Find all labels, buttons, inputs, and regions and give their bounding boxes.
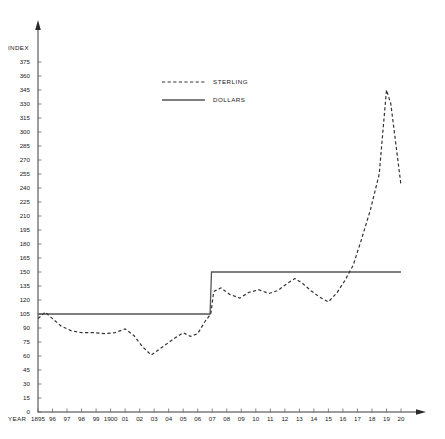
x-tick-label: 18 (369, 415, 376, 422)
x-tick-label: 05 (180, 415, 187, 422)
y-tick-label: 345 (6, 86, 30, 93)
y-tick-label: 60 (6, 352, 30, 359)
y-tick-label: 135 (6, 282, 30, 289)
y-tick-label: 30 (6, 380, 30, 387)
legend-label-dollars: DOLLARS (213, 96, 245, 103)
y-tick-label: 285 (6, 142, 30, 149)
x-tick-label: 04 (165, 415, 172, 422)
x-tick-label: 17 (354, 415, 361, 422)
y-tick-label: 105 (6, 310, 30, 317)
x-axis-title: YEAR (8, 415, 26, 422)
x-tick-label: 02 (136, 415, 143, 422)
x-tick-label: 08 (223, 415, 230, 422)
x-tick-label: 01 (122, 415, 129, 422)
x-tick-label: 03 (151, 415, 158, 422)
x-tick-label: 98 (78, 415, 85, 422)
y-axis-title: INDEX (8, 44, 29, 51)
y-tick-label: 45 (6, 366, 30, 373)
y-tick-label: 0 (6, 408, 30, 415)
y-tick-label: 315 (6, 114, 30, 121)
y-tick-label: 255 (6, 170, 30, 177)
y-tick-label: 270 (6, 156, 30, 163)
y-tick-label: 150 (6, 268, 30, 275)
x-tick-label: 09 (238, 415, 245, 422)
y-tick-label: 165 (6, 254, 30, 261)
y-tick-label: 195 (6, 226, 30, 233)
x-tick-label: 12 (281, 415, 288, 422)
x-tick-label: 16 (339, 415, 346, 422)
series-line-sterling (38, 90, 401, 355)
y-tick-label: 330 (6, 100, 30, 107)
y-tick-label: 300 (6, 128, 30, 135)
x-tick-label: 14 (310, 415, 317, 422)
y-tick-label: 15 (6, 394, 30, 401)
y-tick-label: 375 (6, 58, 30, 65)
x-tick-label: 1895 (31, 415, 45, 422)
x-tick-label: 99 (93, 415, 100, 422)
x-tick-label: 13 (296, 415, 303, 422)
x-tick-label: 06 (194, 415, 201, 422)
y-tick-label: 225 (6, 198, 30, 205)
x-tick-label: 11 (267, 415, 273, 422)
chart-container: INDEX YEAR 01530456075901051201351501651… (0, 0, 445, 439)
y-tick-label: 90 (6, 324, 30, 331)
x-tick-label: 96 (49, 415, 56, 422)
chart-plot-area (0, 0, 445, 439)
x-tick-label: 15 (325, 415, 332, 422)
x-tick-label: 10 (252, 415, 259, 422)
y-tick-label: 240 (6, 184, 30, 191)
x-tick-label: 20 (398, 415, 405, 422)
y-tick-label: 360 (6, 72, 30, 79)
legend-label-sterling: STERLING (213, 78, 248, 85)
y-tick-label: 180 (6, 240, 30, 247)
x-tick-label: 07 (209, 415, 216, 422)
x-tick-label: 1900 (104, 415, 118, 422)
y-tick-label: 210 (6, 212, 30, 219)
x-tick-label: 97 (64, 415, 71, 422)
y-tick-label: 75 (6, 338, 30, 345)
y-tick-label: 120 (6, 296, 30, 303)
x-tick-label: 19 (383, 415, 390, 422)
